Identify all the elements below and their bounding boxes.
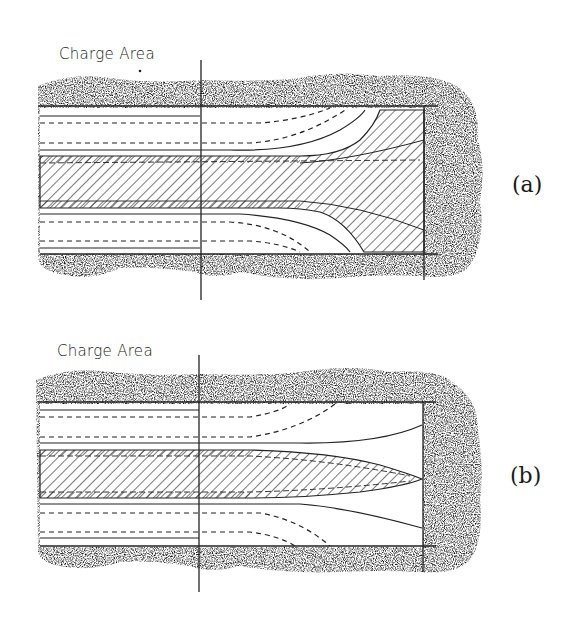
- panel-a: [38, 60, 483, 300]
- charge-diagram: [0, 0, 577, 617]
- panel-b: [36, 355, 482, 592]
- hatched-core-b: [40, 450, 422, 498]
- hatched-core-a: [40, 110, 424, 252]
